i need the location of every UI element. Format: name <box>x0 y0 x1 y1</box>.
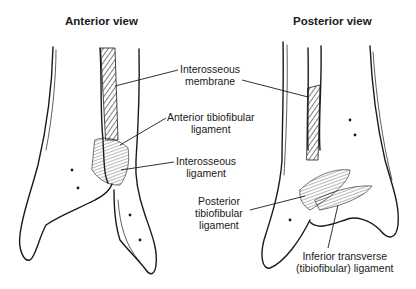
posterior-view-drawing <box>262 42 398 268</box>
leader-inferior-transverse <box>328 205 338 248</box>
leader-interosseous-membrane-posterior <box>242 80 308 97</box>
anterior-tibiofibular-ligament-fibers <box>92 138 129 185</box>
anterior-interosseous-membrane <box>101 48 118 140</box>
posterior-view-title: Posterior view <box>293 15 372 27</box>
leader-interosseous-ligament <box>121 162 174 170</box>
anterior-view-title: Anterior view <box>65 15 138 27</box>
label-inferior-transverse-ligament: Inferior transverse (tibiofibular) ligam… <box>296 250 393 274</box>
label-anterior-tibiofibular-ligament: Anterior tibiofibular ligament <box>167 111 255 135</box>
label-interosseous-ligament: Interosseous ligament <box>176 155 236 179</box>
posterior-fibula <box>262 42 310 268</box>
posterior-interosseous-membrane <box>307 85 320 160</box>
label-interosseous-membrane: Interosseous membrane <box>180 63 240 87</box>
label-posterior-tibiofibular-ligament: Posterior tibiofibular ligament <box>195 195 243 231</box>
ankle-illustration <box>0 0 416 289</box>
leader-posterior-tibiofibular <box>250 196 305 210</box>
leader-interosseous-membrane-anterior <box>115 70 178 86</box>
leader-anterior-tibiofibular <box>120 118 166 145</box>
